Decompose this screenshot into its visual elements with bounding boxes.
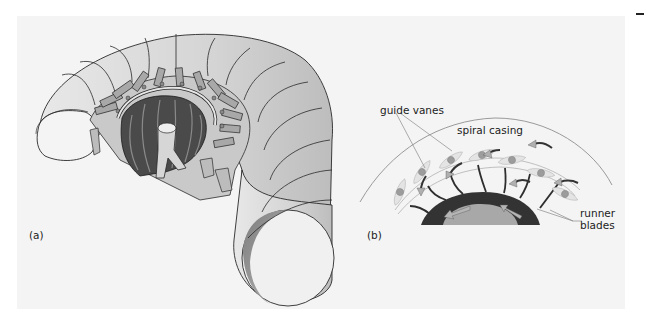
turbine-diagram (0, 0, 651, 321)
spiral-casing-label: spiral casing (457, 124, 523, 136)
panel-b-label: (b) (367, 229, 382, 241)
panel-a-label: (a) (29, 229, 44, 241)
casing-end-opening (37, 111, 97, 161)
runner-blades-label-line1: runner (580, 207, 615, 219)
guide-vanes-label: guide vanes (380, 104, 444, 116)
runner-blades-label-line2: blades (580, 219, 615, 231)
panel-a-drawing (36, 34, 334, 306)
